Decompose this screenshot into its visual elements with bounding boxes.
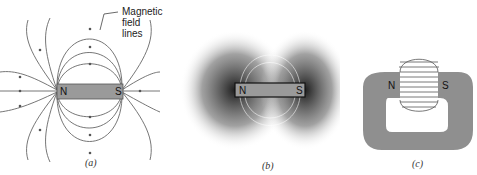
panel-b-iron-filings-photo: N S (b) bbox=[160, 0, 340, 175]
north-pole-label: N bbox=[239, 85, 246, 96]
north-pole-label: N bbox=[60, 86, 67, 97]
caption-c: (c) bbox=[412, 158, 423, 169]
panel-c-horseshoe-magnet-diagram: N S (c) bbox=[340, 0, 477, 175]
caption-a: (a) bbox=[85, 157, 97, 168]
annotation-label-line2: field lines bbox=[122, 17, 160, 39]
north-pole-label: N bbox=[388, 80, 395, 91]
annotation-leader-line bbox=[100, 12, 118, 30]
south-pole-label: S bbox=[115, 86, 122, 97]
south-pole-label: S bbox=[296, 85, 303, 96]
south-pole-label: S bbox=[442, 80, 449, 91]
iron-filings-pattern bbox=[160, 0, 340, 175]
annotation-label-line1: Magnetic bbox=[122, 6, 163, 17]
horseshoe-magnet-diagram bbox=[340, 0, 477, 175]
panel-a-bar-magnet-field-diagram: N S Magnetic field lines (a) bbox=[0, 0, 160, 175]
caption-b: (b) bbox=[262, 160, 274, 171]
